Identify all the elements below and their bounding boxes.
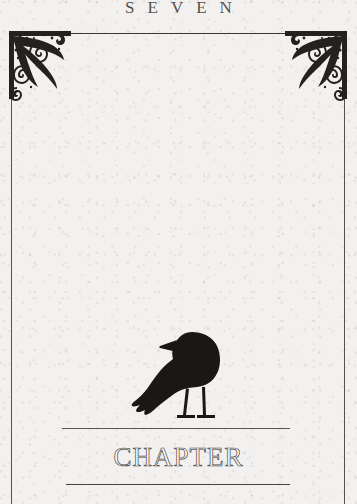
bottom-rule — [66, 484, 290, 485]
raven-illustration — [131, 327, 231, 429]
chapter-label: CHAPTER — [0, 440, 357, 474]
frame-rule-left — [11, 33, 12, 504]
corner-ornament-left-icon — [7, 29, 73, 103]
frame-rule-right — [344, 33, 345, 504]
chapter-opening-page: SEVEN — [0, 0, 357, 504]
chapter-number-word: SEVEN — [0, 0, 357, 19]
corner-ornament-right-icon — [283, 29, 349, 103]
decorative-frame — [11, 33, 345, 504]
perch-rule — [62, 428, 290, 429]
